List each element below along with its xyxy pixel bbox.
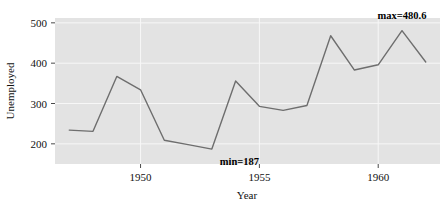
plot-panel-background — [55, 18, 440, 164]
unemployment-line-chart: 200300400500 195019551960 min=187max=480… — [0, 0, 448, 205]
x-tick-label-1955: 1955 — [248, 171, 271, 183]
y-tick-label-300: 300 — [31, 98, 48, 110]
y-tick-label-400: 400 — [31, 57, 48, 69]
x-axis-ticks: 195019551960 — [130, 164, 390, 183]
y-axis-title: Unemployed — [4, 62, 16, 119]
x-tick-label-1960: 1960 — [367, 171, 390, 183]
y-tick-label-500: 500 — [31, 17, 48, 29]
x-axis-title: Year — [237, 189, 258, 201]
x-tick-label-1950: 1950 — [130, 171, 153, 183]
chart-canvas: 200300400500 195019551960 min=187max=480… — [0, 0, 448, 205]
max-annotation: max=480.6 — [378, 10, 427, 21]
min-annotation: min=187 — [220, 156, 259, 167]
y-axis-ticks: 200300400500 — [31, 17, 56, 150]
y-tick-label-200: 200 — [31, 138, 48, 150]
